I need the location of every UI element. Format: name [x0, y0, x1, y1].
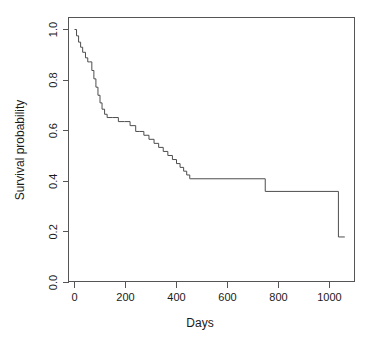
- plot-frame-box: [69, 18, 355, 282]
- y-tick-label-0.4: 0.4: [47, 174, 59, 189]
- km-plot-svg: 1.0 0.8 0.6 0.4 0.2 0.0 0 200 400 600 80…: [0, 0, 368, 343]
- x-tick-label-400: 400: [167, 291, 185, 303]
- survival-curve-figure: 1.0 0.8 0.6 0.4 0.2 0.0 0 200 400 600 80…: [0, 0, 368, 343]
- x-axis-tick-marks: [75, 282, 330, 288]
- survival-step-curve: [75, 30, 345, 237]
- x-axis-title: Days: [186, 316, 213, 330]
- y-tick-label-0.6: 0.6: [47, 123, 59, 138]
- x-tick-label-800: 800: [269, 291, 287, 303]
- y-tick-label-0.2: 0.2: [47, 224, 59, 239]
- x-axis-tick-labels: 0 200 400 600 800 1000: [71, 291, 341, 303]
- x-tick-label-0: 0: [71, 291, 77, 303]
- y-tick-label-0.8: 0.8: [47, 72, 59, 87]
- x-tick-label-200: 200: [116, 291, 134, 303]
- y-axis-tick-marks: [63, 30, 69, 283]
- y-axis-tick-labels: 1.0 0.8 0.6 0.4 0.2 0.0: [47, 22, 59, 290]
- y-tick-label-1.0: 1.0: [47, 22, 59, 37]
- y-tick-label-0.0: 0.0: [47, 275, 59, 290]
- x-tick-label-1000: 1000: [317, 291, 341, 303]
- y-axis-title: Survival probability: [13, 100, 27, 201]
- x-tick-label-600: 600: [218, 291, 236, 303]
